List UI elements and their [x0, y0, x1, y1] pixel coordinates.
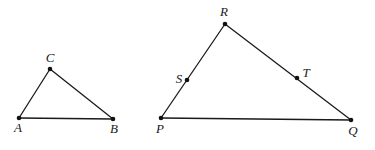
vertex-c-point — [48, 67, 53, 72]
side-qr — [225, 24, 351, 120]
label-t: T — [302, 65, 310, 80]
side-rp — [161, 24, 225, 118]
label-q: Q — [348, 123, 358, 138]
vertex-q-point — [349, 118, 354, 123]
vertex-r-point — [223, 22, 228, 27]
side-pq — [161, 118, 351, 120]
side-ca — [19, 69, 50, 118]
vertex-p-point — [159, 116, 164, 121]
point-t — [295, 76, 300, 81]
triangle-pqr: P Q R S T — [155, 4, 358, 138]
side-bc — [50, 69, 113, 119]
label-b: B — [110, 121, 118, 136]
side-ab — [19, 118, 113, 119]
label-r: R — [219, 4, 228, 19]
point-s — [185, 78, 190, 83]
triangle-abc: A B C — [13, 50, 118, 136]
label-p: P — [155, 121, 164, 136]
label-c: C — [46, 50, 55, 65]
geometry-diagram: A B C P Q R S T — [0, 0, 375, 150]
label-s: S — [176, 71, 183, 86]
label-a: A — [13, 120, 22, 135]
